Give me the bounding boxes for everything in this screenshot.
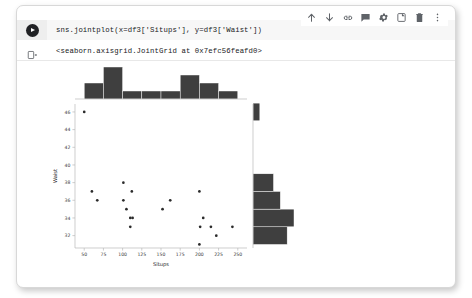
scatter-point bbox=[83, 111, 86, 114]
x-tick-label: 100 bbox=[118, 252, 127, 257]
y-tick-label: 34 bbox=[65, 216, 71, 221]
y-tick-label: 36 bbox=[65, 198, 71, 203]
marginal-y-bar bbox=[253, 103, 260, 121]
move-cell-up-icon[interactable] bbox=[305, 11, 318, 24]
jointplot-figure: 5075100125150175200225250 32343638404244… bbox=[47, 62, 297, 277]
output-stream-icon bbox=[27, 46, 38, 57]
scatter-point bbox=[131, 217, 134, 220]
more-options-icon[interactable] bbox=[431, 11, 444, 24]
cell-settings-icon[interactable] bbox=[377, 11, 390, 24]
scatter-point bbox=[199, 225, 202, 228]
x-tick-label: 150 bbox=[157, 252, 166, 257]
y-axis-label: Waist bbox=[52, 169, 58, 183]
play-icon bbox=[31, 28, 35, 32]
scatter-point bbox=[122, 181, 125, 184]
scatter-point bbox=[96, 199, 99, 202]
marginal-x-bar bbox=[161, 91, 180, 99]
marginal-y-bar bbox=[253, 227, 287, 245]
marginal-y-bar bbox=[253, 209, 294, 227]
x-tick-label: 175 bbox=[176, 252, 185, 257]
x-tick-label: 50 bbox=[81, 252, 87, 257]
x-axis-label: Situps bbox=[153, 261, 169, 268]
notebook-cell-window: sns.jointplot(x=df3['Situps'], y=df3['Wa… bbox=[16, 5, 456, 288]
scatter-point bbox=[129, 217, 132, 220]
add-comment-icon[interactable] bbox=[359, 11, 372, 24]
marginal-x-bar bbox=[142, 91, 161, 99]
scatter-point bbox=[231, 225, 234, 228]
marginal-x-bar bbox=[219, 91, 238, 99]
marginal-x-bar bbox=[103, 67, 122, 99]
scatter-point bbox=[198, 243, 201, 246]
scatter-point bbox=[210, 225, 213, 228]
marginal-x-bar bbox=[199, 83, 218, 99]
screenshot-root: sns.jointplot(x=df3['Situps'], y=df3['Wa… bbox=[0, 0, 472, 298]
scatter-point bbox=[198, 190, 201, 193]
link-to-cell-icon[interactable] bbox=[341, 11, 354, 24]
y-tick-label: 46 bbox=[65, 110, 71, 115]
marginal-y-bar bbox=[253, 174, 274, 192]
scatter-point bbox=[169, 199, 172, 202]
jointplot-svg: 5075100125150175200225250 32343638404244… bbox=[47, 62, 297, 277]
scatter-point bbox=[129, 225, 132, 228]
code-line: sns.jointplot(x=df3['Situps'], y=df3['Wa… bbox=[56, 26, 262, 34]
mirror-cell-icon[interactable] bbox=[395, 11, 408, 24]
x-tick-label: 250 bbox=[233, 252, 242, 257]
x-tick-label: 75 bbox=[100, 252, 106, 257]
scatter-point bbox=[125, 208, 128, 211]
marginal-x-bar bbox=[84, 83, 103, 99]
y-tick-label: 44 bbox=[65, 127, 71, 132]
scatter-point bbox=[122, 199, 125, 202]
marginal-x-bar bbox=[123, 91, 142, 99]
output-cell-row: <seaborn.axisgrid.JointGrid at 0x7efc56f… bbox=[17, 42, 455, 60]
move-cell-down-icon[interactable] bbox=[323, 11, 336, 24]
scatter-point bbox=[215, 234, 218, 237]
scatter-point bbox=[161, 208, 164, 211]
scatter-points bbox=[83, 111, 234, 246]
cell-divider bbox=[17, 60, 455, 61]
scatter-point bbox=[91, 190, 94, 193]
cell-toolbar bbox=[301, 9, 448, 26]
run-cell-button[interactable] bbox=[26, 24, 39, 37]
y-tick-label: 38 bbox=[65, 180, 71, 185]
marginal-x-bar bbox=[180, 75, 199, 99]
marginal-y-bar bbox=[253, 191, 280, 209]
x-tick-label: 125 bbox=[137, 252, 146, 257]
output-text: <seaborn.axisgrid.JointGrid at 0x7efc56f… bbox=[47, 47, 262, 55]
x-axis-ticks: 5075100125150175200225250 bbox=[81, 248, 242, 257]
y-tick-label: 42 bbox=[65, 145, 71, 150]
scatter-point bbox=[202, 217, 205, 220]
output-gutter bbox=[17, 46, 47, 57]
run-cell-gutter bbox=[17, 20, 47, 40]
marginal-y-histogram bbox=[253, 103, 294, 244]
marginal-x-histogram bbox=[84, 67, 238, 99]
x-tick-label: 225 bbox=[214, 252, 223, 257]
x-tick-label: 200 bbox=[195, 252, 204, 257]
y-tick-label: 32 bbox=[65, 233, 71, 238]
delete-cell-icon[interactable] bbox=[413, 11, 426, 24]
y-axis-ticks: 3234363840424446 bbox=[65, 110, 75, 239]
scatter-point bbox=[130, 190, 133, 193]
y-tick-label: 40 bbox=[65, 163, 71, 168]
